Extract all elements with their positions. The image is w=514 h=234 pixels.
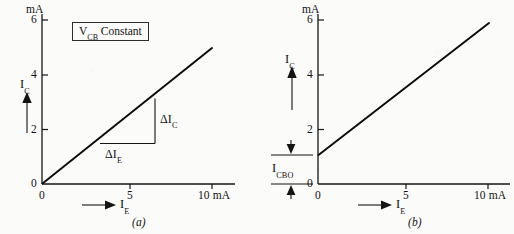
panel-a-x-axis-label-sub: E <box>124 207 129 216</box>
panel-b-y-axis-label: IC <box>285 53 295 66</box>
delta-ic-symbol: ΔI <box>160 112 172 126</box>
vcb-constant-note: VCB Constant <box>72 22 149 41</box>
panel-b-ytick-label-0: 0 <box>307 178 313 190</box>
panel-a-ytick-label-2: 2 <box>31 124 37 136</box>
panel-b-x-axis-label-sub: E <box>400 207 405 216</box>
vcb-note-sub: CB <box>87 33 98 42</box>
panel-b-ytick-label-4: 4 <box>307 69 313 81</box>
panel-b-curve <box>319 23 490 155</box>
panel-b-caption: (b) <box>408 217 422 229</box>
panel-a-xtick-label-10: 10 mA <box>198 190 230 202</box>
panel-a-ie-arrow <box>82 200 116 209</box>
delta-ie-sub: E <box>117 156 122 165</box>
figure-page: mA 6 4 2 0 0 5 10 mA IC IE VCB Constant … <box>0 0 514 234</box>
panel-b-xtick-label-10: 10 mA <box>474 190 506 202</box>
delta-ie-symbol: ΔI <box>105 147 117 161</box>
delta-ic-sub: C <box>172 121 178 130</box>
panel-b-x-axis-label: IE <box>396 198 405 211</box>
panel-b-icbo-arrow-down <box>287 144 296 154</box>
panel-b-ytick-label-6: 6 <box>307 14 313 26</box>
panel-a-ytick-label-6: 6 <box>31 14 37 26</box>
panel-a-caption: (a) <box>132 217 146 229</box>
panel-b-axes <box>318 14 510 189</box>
delta-ie-label: ΔIE <box>105 148 122 160</box>
panel-a-ytick-label-0: 0 <box>31 178 37 190</box>
panel-b-icbo-arrow-up <box>287 185 296 195</box>
delta-ic-label: ΔIC <box>160 113 177 125</box>
panel-b-xtick-label-0: 0 <box>315 190 321 202</box>
panel-a-slope-triangle <box>100 99 155 144</box>
panel-b-ie-arrow <box>358 200 392 209</box>
icbo-label-sub: CBO <box>276 171 293 180</box>
icbo-label: ICBO <box>272 162 293 175</box>
panel-a-y-axis-label: IC <box>20 78 30 91</box>
panel-a-ytick-label-4: 4 <box>31 69 37 81</box>
panel-a-x-axis-label: IE <box>120 198 129 211</box>
panel-a-xtick-label-0: 0 <box>39 190 45 202</box>
panel-b-y-axis-label-sub: C <box>289 62 295 71</box>
vcb-note-text: Constant <box>101 25 142 37</box>
panel-b-ytick-label-2: 2 <box>307 124 313 136</box>
panel-a-y-axis-label-sub: C <box>24 87 30 96</box>
panel-b-ic-arrow <box>287 66 296 110</box>
panel-a-curve <box>43 48 213 184</box>
